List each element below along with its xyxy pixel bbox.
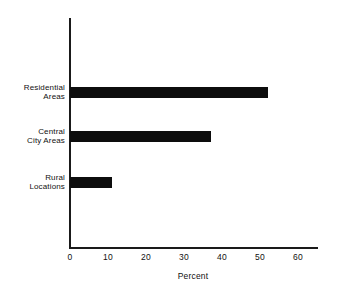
x-axis-line bbox=[69, 247, 318, 249]
category-label: CentralCity Areas bbox=[0, 127, 65, 146]
x-tick-label: 50 bbox=[245, 252, 275, 262]
x-tick-label: 40 bbox=[207, 252, 237, 262]
x-axis-title: Percent bbox=[0, 271, 346, 281]
category-label-line: Residential bbox=[0, 83, 65, 93]
category-label-line: Areas bbox=[0, 92, 65, 102]
category-label-line: Rural bbox=[0, 173, 65, 183]
bar bbox=[70, 87, 268, 98]
x-tick-label: 10 bbox=[93, 252, 123, 262]
x-axis-title-text: Percent bbox=[138, 271, 209, 281]
x-tick-label: 20 bbox=[131, 252, 161, 262]
category-label-line: Locations bbox=[0, 182, 65, 192]
bar bbox=[70, 177, 112, 188]
x-tick-label: 60 bbox=[283, 252, 313, 262]
bar-chart: ResidentialAreasCentralCity AreasRuralLo… bbox=[0, 0, 346, 294]
category-label: RuralLocations bbox=[0, 173, 65, 192]
bar bbox=[70, 131, 211, 142]
x-tick-label: 0 bbox=[55, 252, 85, 262]
category-label: ResidentialAreas bbox=[0, 83, 65, 102]
category-label-line: Central bbox=[0, 127, 65, 137]
x-tick-label: 30 bbox=[169, 252, 199, 262]
category-label-line: City Areas bbox=[0, 136, 65, 146]
